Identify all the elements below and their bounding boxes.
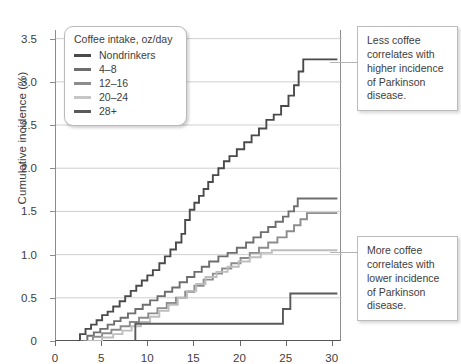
legend-item: 12–16 — [74, 76, 178, 90]
legend-item: 28+ — [74, 104, 178, 118]
y-axis-tick: 2.5 — [3, 119, 37, 131]
x-tick-mark — [240, 341, 241, 346]
x-axis-tick: 20 — [233, 352, 246, 364]
legend-item-label: 12–16 — [99, 77, 128, 89]
x-axis-tick: 10 — [141, 352, 154, 364]
x-tick-mark — [101, 341, 102, 346]
y-axis-tick: 1.5 — [3, 205, 37, 217]
legend-item: Nondrinkers — [74, 48, 178, 62]
y-tick-mark — [50, 298, 55, 299]
x-tick-mark — [147, 341, 148, 346]
x-tick-mark — [286, 341, 287, 346]
callout-less-coffee: Less coffee correlates with higher incid… — [357, 26, 458, 111]
y-axis-tick: 3.5 — [3, 33, 37, 45]
legend-item-label: 4–8 — [99, 63, 117, 75]
x-axis-tick: 25 — [279, 352, 292, 364]
legend-swatch-icon — [74, 96, 91, 99]
legend-item: 4–8 — [74, 62, 178, 76]
x-axis-tick: 30 — [325, 352, 338, 364]
y-tick-mark — [50, 255, 55, 256]
x-tick-mark — [55, 341, 56, 346]
y-tick-mark — [50, 168, 55, 169]
callout-more-coffee: More coffee correlates with lower incide… — [357, 236, 458, 321]
legend-swatch-icon — [74, 68, 91, 71]
y-tick-mark — [50, 39, 55, 40]
y-axis-tick: 1.0 — [3, 249, 37, 261]
callout-bottom-connector — [330, 252, 358, 253]
x-axis-tick: 0 — [52, 352, 58, 364]
legend-item: 20–24 — [74, 90, 178, 104]
legend-item-label: 28+ — [99, 105, 117, 117]
x-axis-tick: 5 — [98, 352, 104, 364]
series-line — [80, 198, 337, 341]
legend-swatch-icon — [74, 82, 91, 85]
chart-figure: Cumulative incidence (%) 00.51.01.52.02.… — [0, 0, 461, 364]
legend-item-label: Nondrinkers — [99, 49, 156, 61]
y-axis-tick: 0.5 — [3, 292, 37, 304]
legend-item-label: 20–24 — [99, 91, 128, 103]
y-axis-tick: 2.0 — [3, 162, 37, 174]
y-tick-mark — [50, 211, 55, 212]
y-tick-mark — [50, 82, 55, 83]
x-tick-mark — [332, 341, 333, 346]
legend-swatch-icon — [74, 54, 91, 57]
legend-title: Coffee intake, oz/day — [74, 33, 178, 45]
x-axis-tick: 15 — [187, 352, 200, 364]
y-axis-tick: 3.0 — [3, 76, 37, 88]
y-tick-mark — [50, 125, 55, 126]
series-line — [133, 293, 337, 341]
legend-swatch-icon — [74, 110, 91, 113]
legend-items: Nondrinkers4–812–1620–2428+ — [74, 48, 178, 118]
x-axis-ticks: 051015202530 — [0, 344, 461, 364]
legend: Coffee intake, oz/day Nondrinkers4–812–1… — [64, 26, 187, 126]
x-tick-mark — [193, 341, 194, 346]
callout-top-connector — [330, 62, 358, 63]
y-axis-ticks: 00.51.01.52.02.53.03.5 — [5, 0, 37, 364]
